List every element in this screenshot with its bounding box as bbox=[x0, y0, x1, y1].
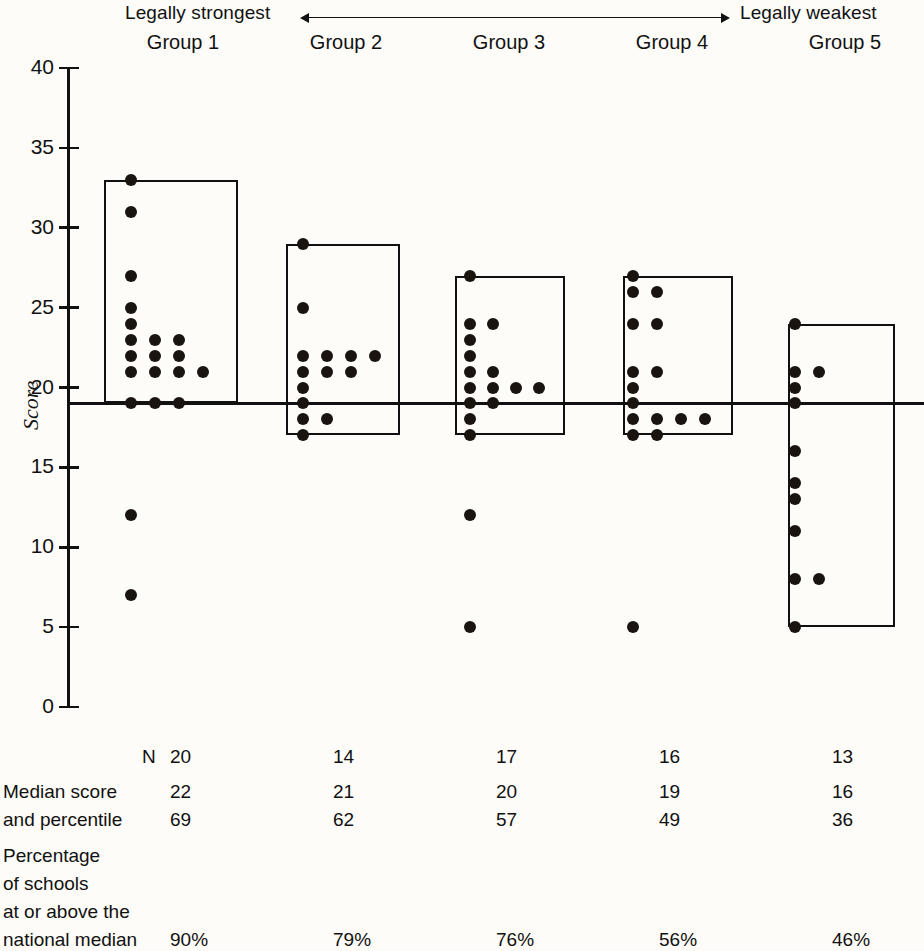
data-point bbox=[345, 366, 357, 378]
median-score-group-1: 22 bbox=[170, 781, 191, 803]
pct-above-median-group-3: 76% bbox=[496, 929, 534, 951]
data-point bbox=[321, 366, 333, 378]
data-point bbox=[173, 350, 185, 362]
data-point bbox=[173, 334, 185, 346]
pct-above-median-group-2: 79% bbox=[333, 929, 371, 951]
percentile-group-3: 57 bbox=[496, 809, 517, 831]
n-value-group-5: 13 bbox=[832, 746, 853, 768]
data-point bbox=[627, 318, 639, 330]
data-point bbox=[173, 366, 185, 378]
data-point bbox=[627, 429, 639, 441]
pct-above-median-group-4: 56% bbox=[659, 929, 697, 951]
data-point bbox=[487, 382, 499, 394]
row-label-percentage-line1: Percentage bbox=[3, 845, 100, 867]
range-box-group-1 bbox=[104, 180, 238, 404]
data-point bbox=[487, 318, 499, 330]
data-point bbox=[125, 270, 137, 282]
data-point bbox=[297, 302, 309, 314]
n-value-group-4: 16 bbox=[659, 746, 680, 768]
data-point bbox=[125, 509, 137, 521]
row-label-percentage-line3: at or above the bbox=[3, 901, 130, 923]
chart-root: Legally strongest Legally weakest Group … bbox=[0, 0, 924, 951]
data-point bbox=[173, 397, 185, 409]
data-point bbox=[125, 302, 137, 314]
data-point bbox=[627, 286, 639, 298]
data-point bbox=[149, 397, 161, 409]
percentile-group-4: 49 bbox=[659, 809, 680, 831]
row-label-n: N bbox=[142, 746, 156, 768]
data-point bbox=[125, 366, 137, 378]
data-point bbox=[789, 382, 801, 394]
data-point bbox=[789, 366, 801, 378]
data-point bbox=[297, 366, 309, 378]
data-point bbox=[464, 621, 476, 633]
n-value-group-1: 20 bbox=[170, 746, 191, 768]
data-point bbox=[651, 318, 663, 330]
data-point bbox=[510, 382, 522, 394]
median-score-group-4: 19 bbox=[659, 781, 680, 803]
data-point bbox=[464, 334, 476, 346]
data-point bbox=[321, 350, 333, 362]
data-point bbox=[125, 589, 137, 601]
data-point bbox=[149, 366, 161, 378]
data-point bbox=[789, 621, 801, 633]
data-point bbox=[125, 318, 137, 330]
data-point bbox=[149, 350, 161, 362]
data-point bbox=[464, 429, 476, 441]
data-point bbox=[464, 350, 476, 362]
data-point bbox=[627, 366, 639, 378]
row-label-median-score: Median score bbox=[3, 781, 117, 803]
n-value-group-3: 17 bbox=[496, 746, 517, 768]
row-label-percentile: and percentile bbox=[3, 809, 122, 831]
percentile-group-5: 36 bbox=[832, 809, 853, 831]
pct-above-median-group-5: 46% bbox=[832, 929, 870, 951]
n-value-group-2: 14 bbox=[333, 746, 354, 768]
percentile-group-2: 62 bbox=[333, 809, 354, 831]
row-label-percentage-line4: national median bbox=[3, 929, 137, 951]
median-score-group-2: 21 bbox=[333, 781, 354, 803]
data-point bbox=[125, 206, 137, 218]
data-point bbox=[297, 350, 309, 362]
data-point bbox=[125, 334, 137, 346]
median-score-group-3: 20 bbox=[496, 781, 517, 803]
data-point bbox=[464, 509, 476, 521]
data-point bbox=[125, 350, 137, 362]
data-point bbox=[464, 366, 476, 378]
pct-above-median-group-1: 90% bbox=[170, 929, 208, 951]
data-point bbox=[487, 366, 499, 378]
range-box-group-5 bbox=[788, 324, 895, 628]
data-point bbox=[464, 318, 476, 330]
data-point bbox=[149, 334, 161, 346]
range-box-group-4 bbox=[623, 276, 733, 436]
plot-area bbox=[0, 0, 924, 720]
data-point bbox=[197, 366, 209, 378]
data-point bbox=[345, 350, 357, 362]
data-point bbox=[297, 429, 309, 441]
data-point bbox=[627, 270, 639, 282]
data-point bbox=[651, 366, 663, 378]
data-point bbox=[651, 429, 663, 441]
data-point bbox=[125, 397, 137, 409]
data-point bbox=[125, 174, 137, 186]
data-point bbox=[533, 382, 545, 394]
row-label-percentage-line2: of schools bbox=[3, 873, 89, 895]
data-point bbox=[651, 286, 663, 298]
data-point bbox=[297, 238, 309, 250]
data-point bbox=[627, 621, 639, 633]
data-point bbox=[813, 366, 825, 378]
percentile-group-1: 69 bbox=[170, 809, 191, 831]
data-point bbox=[627, 382, 639, 394]
data-point bbox=[369, 350, 381, 362]
data-point bbox=[464, 270, 476, 282]
data-point bbox=[297, 382, 309, 394]
data-point bbox=[789, 318, 801, 330]
data-point bbox=[464, 382, 476, 394]
median-score-group-5: 16 bbox=[832, 781, 853, 803]
